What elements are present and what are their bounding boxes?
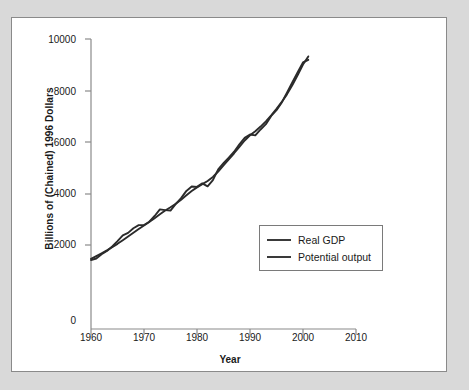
legend-label-real-gdp: Real GDP	[298, 234, 345, 246]
legend-line-icon-real-gdp	[267, 239, 291, 241]
chart-area: Billions of (Chained) 1996 Dollars Year …	[12, 18, 448, 373]
axis-spines	[91, 39, 356, 329]
x-axis-ticks	[91, 329, 356, 335]
legend-entry-potential-output: Potential output	[267, 248, 371, 265]
figure-frame: Billions of (Chained) 1996 Dollars Year …	[11, 17, 447, 372]
plot-svg	[12, 18, 448, 373]
legend-label-potential-output: Potential output	[298, 251, 371, 263]
legend-line-icon-potential-output	[267, 256, 291, 258]
chart-legend: Real GDP Potential output	[259, 225, 383, 271]
legend-entry-real-gdp: Real GDP	[267, 231, 371, 248]
y-axis-ticks	[85, 39, 91, 245]
